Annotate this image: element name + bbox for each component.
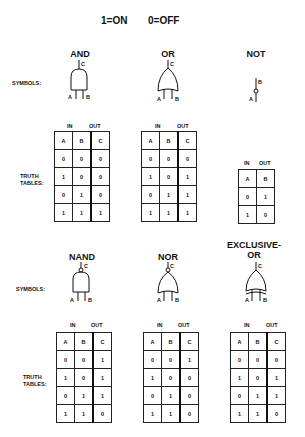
cell: 0 xyxy=(162,369,181,387)
cell: 1 xyxy=(162,405,181,423)
cell: 1 xyxy=(160,186,179,204)
cell: A xyxy=(239,170,257,188)
cell: 1 xyxy=(257,188,275,206)
cell: 0 xyxy=(93,405,112,423)
cell: 0 xyxy=(91,186,110,204)
cell: 1 xyxy=(75,387,94,405)
symbols-label-bottom: SYMBOLS: xyxy=(16,286,45,293)
cell: B xyxy=(162,333,181,351)
not-output-label: B xyxy=(258,79,262,85)
xor-in-header: IN xyxy=(244,322,250,328)
cell: 1 xyxy=(267,369,286,387)
cell: 0 xyxy=(178,150,197,168)
cell: 0 xyxy=(75,369,94,387)
cell: 1 xyxy=(73,186,92,204)
xor-title-line1: EXCLUSIVE- xyxy=(214,240,294,250)
nand-input-a-label: A xyxy=(70,297,74,303)
cell: 1 xyxy=(231,405,249,423)
cell: 1 xyxy=(93,351,112,369)
or-input-a-label: A xyxy=(157,96,161,102)
cell: 0 xyxy=(73,168,92,186)
cell: 0 xyxy=(249,351,268,369)
xor-gate-icon xyxy=(244,262,268,302)
truth-label-line1: TRUTH xyxy=(20,173,43,180)
nand-in-header: IN xyxy=(70,322,76,328)
cell: 0 xyxy=(267,405,286,423)
cell: 1 xyxy=(93,369,112,387)
nor-output-label: C xyxy=(170,263,174,269)
nand-title: NAND xyxy=(42,252,122,262)
or-output-label: C xyxy=(170,61,174,67)
nand-output-label: C xyxy=(84,263,88,269)
nor-gate-icon xyxy=(156,262,180,302)
cell: 0 xyxy=(239,188,257,206)
nor-title: NOR xyxy=(128,252,208,262)
cell: 0 xyxy=(162,351,181,369)
cell: A xyxy=(55,132,73,150)
truth-label-line2: TABLES: xyxy=(20,180,43,187)
cell: 0 xyxy=(257,206,275,224)
cell: 0 xyxy=(267,351,286,369)
cell: 0 xyxy=(55,150,73,168)
truth-tables-label-top: TRUTH TABLES: xyxy=(20,173,43,187)
nor-in-header: IN xyxy=(157,322,163,328)
cell: 1 xyxy=(180,351,199,369)
cell: C xyxy=(91,132,110,150)
cell: 1 xyxy=(75,405,94,423)
cell: 1 xyxy=(93,387,112,405)
cell: C xyxy=(267,333,286,351)
or-in-header: IN xyxy=(155,123,161,129)
cell: 1 xyxy=(55,204,73,222)
cell: 1 xyxy=(142,204,160,222)
cell: 1 xyxy=(160,204,179,222)
cell: 0 xyxy=(73,150,92,168)
or-out-header: OUT xyxy=(177,123,189,129)
not-out-header: OUT xyxy=(259,160,271,166)
cell: 0 xyxy=(144,351,162,369)
and-output-label: C xyxy=(81,61,85,67)
cell: C xyxy=(93,333,112,351)
not-truth-table: AB 01 10 xyxy=(238,169,275,224)
cell: 1 xyxy=(57,405,75,423)
cell: A xyxy=(144,333,162,351)
cell: 1 xyxy=(73,204,92,222)
not-title: NOT xyxy=(216,49,296,59)
cell: 0 xyxy=(180,369,199,387)
and-input-a-label: A xyxy=(68,94,72,100)
cell: B xyxy=(160,132,179,150)
cell: 1 xyxy=(91,204,110,222)
not-input-a-label: A xyxy=(249,96,253,102)
cell: 1 xyxy=(239,206,257,224)
nor-truth-table: ABC 001 100 010 110 xyxy=(143,332,199,423)
symbols-label-top: SYMBOLS: xyxy=(12,80,41,87)
nand-out-header: OUT xyxy=(91,322,103,328)
cell: C xyxy=(180,333,199,351)
cell: 1 xyxy=(267,387,286,405)
nand-gate-icon xyxy=(70,262,94,302)
cell: 0 xyxy=(57,387,75,405)
cell: 0 xyxy=(91,150,110,168)
and-out-header: OUT xyxy=(89,123,101,129)
cell: 0 xyxy=(144,387,162,405)
cell: A xyxy=(57,333,75,351)
cell: 1 xyxy=(178,186,197,204)
nor-input-b-label: B xyxy=(175,297,179,303)
cell: 0 xyxy=(142,150,160,168)
cell: 1 xyxy=(178,168,197,186)
legend-on: 1=ON xyxy=(101,15,127,26)
xor-out-header: OUT xyxy=(266,322,278,328)
cell: A xyxy=(142,132,160,150)
cell: 0 xyxy=(57,351,75,369)
cell: 0 xyxy=(75,351,94,369)
cell: B xyxy=(249,333,268,351)
truth-label-line2: TABLES: xyxy=(23,381,46,388)
truth-tables-label-bottom: TRUTH TABLES: xyxy=(23,374,46,388)
xor-title-line2: OR xyxy=(214,250,294,260)
and-truth-table: ABC 000 100 010 111 xyxy=(54,131,110,222)
or-title: OR xyxy=(128,49,208,59)
cell: 1 xyxy=(142,168,160,186)
cell: 0 xyxy=(160,168,179,186)
cell: 1 xyxy=(57,369,75,387)
xor-input-a-label: A xyxy=(245,297,249,303)
truth-label-line1: TRUTH xyxy=(23,374,46,381)
